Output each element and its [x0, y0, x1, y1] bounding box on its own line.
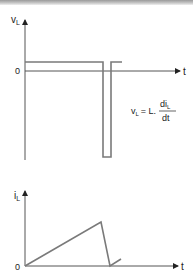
svg-text:diL: diL — [160, 99, 171, 110]
current-origin-label: 0 — [15, 262, 20, 272]
voltage-origin-label: 0 — [15, 66, 20, 76]
svg-text:dt: dt — [162, 113, 170, 123]
svg-text:vL= L.: vL= L. — [131, 106, 156, 117]
inductor-equation: vL= L. diL dt — [131, 99, 176, 123]
voltage-y-label: vL — [11, 14, 20, 26]
current-graph: iL 0 t — [14, 190, 184, 272]
voltage-waveform — [25, 62, 122, 157]
current-waveform — [25, 222, 121, 266]
current-y-label: iL — [14, 190, 20, 202]
voltage-graph: vL 0 t vL= L. diL dt — [11, 14, 186, 160]
voltage-x-label: t — [183, 66, 186, 77]
current-x-label: t — [181, 261, 184, 272]
inductor-waveform-diagram: vL 0 t vL= L. diL dt iL 0 t — [0, 0, 193, 277]
